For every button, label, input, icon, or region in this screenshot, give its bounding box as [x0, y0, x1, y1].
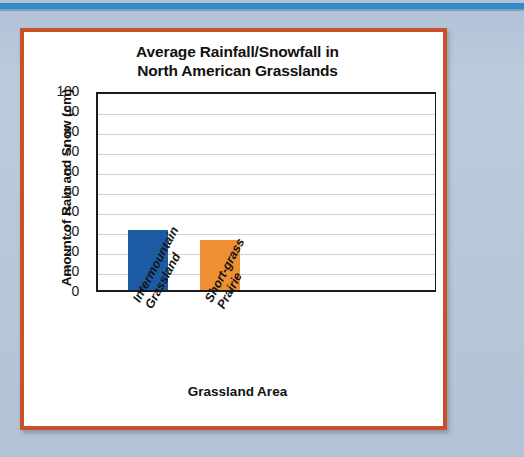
y-tick-label: 10 — [39, 263, 79, 279]
gridline — [98, 134, 435, 135]
y-tick-label: 90 — [39, 103, 79, 119]
gridline — [98, 214, 435, 215]
top-banner-stripe-shadow — [0, 9, 524, 11]
y-tick-label: 20 — [39, 243, 79, 259]
y-tick-label: 40 — [39, 203, 79, 219]
y-tick-label: 70 — [39, 143, 79, 159]
gridline — [98, 114, 435, 115]
y-tick-label: 80 — [39, 123, 79, 139]
chart-title-line-1: Average Rainfall/Snowfall in — [50, 42, 425, 61]
x-axis-title: Grassland Area — [50, 384, 425, 399]
y-tick-label: 50 — [39, 183, 79, 199]
chart-card: Average Rainfall/Snowfall in North Ameri… — [20, 28, 447, 430]
gridline — [98, 194, 435, 195]
y-tick-label: 30 — [39, 223, 79, 239]
chart-card-inner: Average Rainfall/Snowfall in North Ameri… — [24, 32, 443, 426]
y-tick-label: 100 — [39, 83, 79, 99]
chart-title-line-2: North American Grasslands — [50, 61, 425, 80]
gridline — [98, 154, 435, 155]
gridline — [98, 174, 435, 175]
y-tick-label: 0 — [39, 283, 79, 299]
chart-title: Average Rainfall/Snowfall in North Ameri… — [50, 42, 425, 80]
plot-area — [96, 92, 436, 292]
y-tick-label: 60 — [39, 163, 79, 179]
